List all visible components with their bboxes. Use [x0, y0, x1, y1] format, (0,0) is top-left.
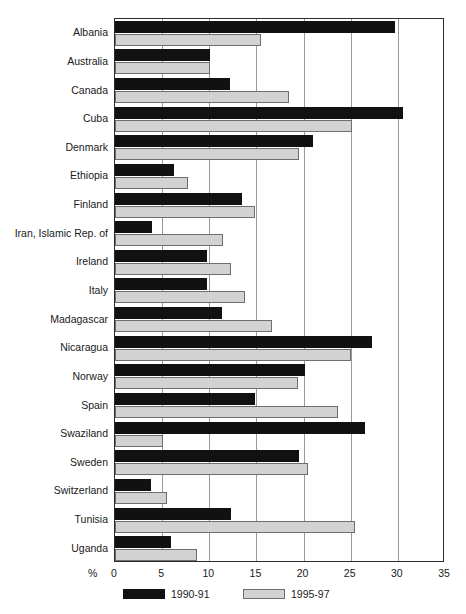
bar-group	[115, 277, 443, 306]
legend-item-1995-97: 1995-97	[243, 588, 330, 600]
bar	[115, 521, 355, 533]
bar-group	[115, 534, 443, 563]
category-label: Ireland	[0, 255, 108, 267]
bar	[115, 549, 197, 561]
category-label: Finland	[0, 198, 108, 210]
category-label: Norway	[0, 370, 108, 382]
bar	[115, 164, 174, 176]
bar	[115, 320, 272, 332]
bar	[115, 406, 338, 418]
category-label: Tunisia	[0, 513, 108, 525]
bar	[115, 492, 167, 504]
category-label: Swaziland	[0, 427, 108, 439]
bar-group	[115, 105, 443, 134]
bar-group	[115, 162, 443, 191]
legend-label-1990-91: 1990-91	[171, 588, 210, 600]
bar	[115, 307, 222, 319]
category-label: Denmark	[0, 141, 108, 153]
bar	[115, 206, 255, 218]
bar	[115, 435, 163, 447]
bar	[115, 536, 171, 548]
category-label: Cuba	[0, 112, 108, 124]
category-label: Iran, Islamic Rep. of	[0, 227, 108, 239]
bar-group	[115, 76, 443, 105]
bar-chart: AlbaniaAustraliaCanadaCubaDenmarkEthiopi…	[0, 0, 466, 614]
category-label: Albania	[0, 26, 108, 38]
bar	[115, 508, 231, 520]
bar	[115, 349, 351, 361]
bar	[115, 479, 151, 491]
xtick-label-10: 10	[193, 566, 223, 580]
bar	[115, 234, 223, 246]
bar	[115, 148, 299, 160]
category-label: Spain	[0, 399, 108, 411]
bar-group	[115, 134, 443, 163]
value-axis-labels: % 05101520253035	[0, 566, 466, 582]
xtick-label-25: 25	[335, 566, 365, 580]
category-label: Australia	[0, 55, 108, 67]
xtick-label-15: 15	[240, 566, 270, 580]
bar	[115, 450, 299, 462]
bar-group	[115, 191, 443, 220]
bar-group	[115, 420, 443, 449]
xtick-label-5: 5	[146, 566, 176, 580]
bar	[115, 291, 245, 303]
bar-group	[115, 219, 443, 248]
bar	[115, 221, 152, 233]
bar	[115, 193, 242, 205]
category-label: Ethiopia	[0, 169, 108, 181]
bar	[115, 393, 255, 405]
bar-group	[115, 506, 443, 535]
bar-group	[115, 477, 443, 506]
bar	[115, 336, 372, 348]
xtick-label-30: 30	[382, 566, 412, 580]
bar-group	[115, 334, 443, 363]
category-label: Italy	[0, 284, 108, 296]
xtick-label-20: 20	[288, 566, 318, 580]
category-label: Uganda	[0, 542, 108, 554]
bar-group	[115, 363, 443, 392]
bar-group	[115, 305, 443, 334]
bar-group	[115, 19, 443, 48]
category-label: Switzerland	[0, 484, 108, 496]
xtick-label-0: 0	[99, 566, 129, 580]
legend-swatch-icon-1995-97	[243, 589, 285, 599]
legend-label-1995-97: 1995-97	[291, 588, 330, 600]
bar	[115, 377, 298, 389]
legend-item-1990-91: 1990-91	[123, 588, 210, 600]
chart-legend: 1990-91 1995-97	[0, 588, 466, 606]
bar-group	[115, 248, 443, 277]
bar	[115, 135, 313, 147]
bar	[115, 250, 207, 262]
bar	[115, 21, 395, 33]
bar	[115, 463, 308, 475]
plot-area	[114, 18, 444, 562]
bar	[115, 177, 188, 189]
bar	[115, 263, 231, 275]
legend-swatch-icon-1990-91	[123, 589, 165, 599]
bars-layer	[115, 19, 443, 561]
bar	[115, 62, 210, 74]
bar	[115, 422, 365, 434]
bar	[115, 107, 403, 119]
bar	[115, 120, 352, 132]
bar	[115, 34, 261, 46]
bar-group	[115, 448, 443, 477]
bar	[115, 49, 210, 61]
bar	[115, 78, 230, 90]
category-label: Sweden	[0, 456, 108, 468]
category-label: Canada	[0, 84, 108, 96]
bar-group	[115, 391, 443, 420]
percent-symbol: %	[88, 566, 97, 580]
xtick-label-35: 35	[429, 566, 459, 580]
category-axis-labels: AlbaniaAustraliaCanadaCubaDenmarkEthiopi…	[0, 18, 108, 562]
bar	[115, 91, 289, 103]
bar-group	[115, 48, 443, 77]
bar	[115, 278, 207, 290]
bar	[115, 364, 305, 376]
category-label: Nicaragua	[0, 341, 108, 353]
category-label: Madagascar	[0, 313, 108, 325]
